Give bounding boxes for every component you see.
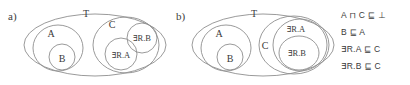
set-label-exists-R-B-a: ∃R.B — [133, 33, 151, 43]
set-label-T-b: T — [251, 8, 257, 19]
axiom-item-3: ∃R.A ⊑ C — [341, 41, 407, 58]
set-label-B-b: B — [227, 53, 234, 64]
set-ellipse-C-a — [93, 17, 159, 73]
set-label-A-b: A — [215, 28, 223, 39]
venn-diagram-b: T A B C ∃R.A ∃R.B — [190, 0, 342, 85]
set-label-exists-R-A-a: ∃R.A — [112, 50, 131, 60]
set-label-C-b: C — [262, 40, 269, 51]
set-ellipse-A-a — [33, 25, 83, 71]
set-ellipse-A-b — [201, 25, 251, 71]
venn-diagram-a: T A B C ∃R.A ∃R.B — [22, 0, 174, 85]
axiom-item-2: B ⊑ A — [341, 24, 407, 41]
set-label-exists-R-B-b: ∃R.B — [288, 48, 306, 58]
axiom-item-1: A ⊓ C ⊑ ⊥ — [341, 7, 407, 24]
axiom-item-4: ∃R.B ⊑ C — [341, 58, 407, 75]
set-label-T-a: T — [83, 8, 89, 19]
panel-label-a: a) — [8, 11, 17, 22]
figure-canvas: a) T A B C ∃R.A ∃R.B b) T A B C — [0, 0, 410, 85]
set-label-exists-R-A-b: ∃R.A — [287, 24, 306, 34]
set-label-B-a: B — [59, 53, 66, 64]
axiom-list: A ⊓ C ⊑ ⊥ B ⊑ A ∃R.A ⊑ C ∃R.B ⊑ C — [341, 7, 407, 75]
set-label-A-a: A — [47, 28, 55, 39]
panel-label-b: b) — [176, 11, 185, 22]
set-label-C-a: C — [109, 19, 116, 30]
